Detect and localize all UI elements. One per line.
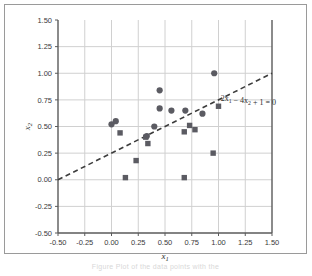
data-point-square bbox=[133, 158, 138, 163]
y-tick-label: -0.25 bbox=[35, 202, 52, 211]
y-tick-label: 0.00 bbox=[37, 175, 52, 184]
data-point-circle bbox=[157, 87, 163, 93]
data-point-square bbox=[187, 123, 192, 128]
x-tick-label: 1.50 bbox=[265, 238, 280, 247]
data-point-circle bbox=[157, 105, 163, 111]
scatter-chart: -0.50-0.250.000.250.500.751.001.251.50 -… bbox=[0, 0, 312, 276]
data-point-square bbox=[192, 127, 197, 132]
data-point-square bbox=[216, 104, 221, 109]
y-tick-label: 0.50 bbox=[37, 122, 52, 131]
x-axis-title: x1 bbox=[160, 251, 168, 262]
x-tick-label: 1.25 bbox=[238, 238, 253, 247]
data-point-square bbox=[143, 134, 148, 139]
data-point-circle bbox=[182, 107, 188, 113]
x-tick-label: 0.00 bbox=[104, 238, 119, 247]
figure-container: -0.50-0.250.000.250.500.751.001.251.50 -… bbox=[0, 0, 312, 276]
data-point-square bbox=[182, 129, 187, 134]
x-tick-label: -0.50 bbox=[49, 238, 66, 247]
y-tick-label: 0.25 bbox=[37, 149, 52, 158]
data-point-square bbox=[145, 141, 150, 146]
data-point-circle bbox=[199, 111, 205, 117]
data-point-circle bbox=[168, 107, 174, 113]
y-axis-title: x2 bbox=[22, 122, 33, 131]
y-tick-label: 1.25 bbox=[37, 42, 52, 51]
y-tick-label: 0.75 bbox=[37, 96, 52, 105]
data-point-circle bbox=[151, 123, 157, 129]
x-tick-label: 0.25 bbox=[131, 238, 146, 247]
y-axis-tick-labels: -0.50-0.250.000.250.500.751.001.251.50 bbox=[35, 16, 52, 238]
x-tick-label: -0.25 bbox=[76, 238, 93, 247]
caption-strip: Figure Plot of the data points with the bbox=[4, 262, 307, 274]
data-point-circle bbox=[211, 70, 217, 76]
x-tick-label: 0.75 bbox=[184, 238, 199, 247]
data-point-square bbox=[117, 130, 122, 135]
data-point-circle bbox=[113, 118, 119, 124]
y-tick-label: -0.50 bbox=[35, 229, 52, 238]
data-point-square bbox=[123, 175, 128, 180]
x-axis-tick-labels: -0.50-0.250.000.250.500.751.001.251.50 bbox=[49, 238, 279, 247]
caption-text: Figure Plot of the data points with the bbox=[4, 262, 307, 272]
data-point-square bbox=[210, 150, 215, 155]
x-tick-label: 0.50 bbox=[158, 238, 173, 247]
y-tick-label: 1.50 bbox=[37, 16, 52, 25]
x-tick-label: 1.00 bbox=[211, 238, 226, 247]
y-tick-label: 1.00 bbox=[37, 69, 52, 78]
data-point-square bbox=[182, 175, 187, 180]
